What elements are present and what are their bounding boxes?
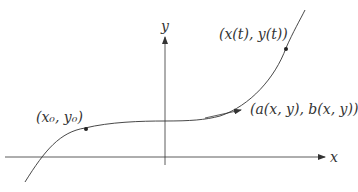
- x-axis-label: x: [330, 150, 338, 164]
- start-point-dot: [84, 127, 88, 131]
- start-point-label: (x₀, y₀): [36, 110, 83, 124]
- moving-point-label: (x(t), y(t)): [219, 27, 288, 41]
- tangent-vector: [205, 110, 241, 118]
- vector-label: (a(x, y), b(x, y)): [250, 102, 358, 116]
- moving-point-dot: [284, 47, 288, 51]
- y-axis-label: y: [161, 19, 169, 33]
